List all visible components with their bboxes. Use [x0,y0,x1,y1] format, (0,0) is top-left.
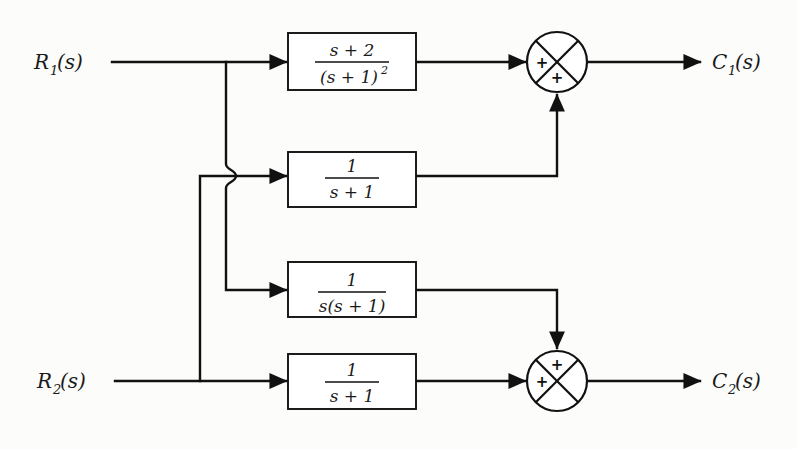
block-g12-numerator: 1 [347,156,358,176]
block-g21-denominator: s(s + 1) [319,296,386,316]
sum1-sign-bottom: + [551,69,564,87]
wire-g21-to-sum2 [416,290,557,348]
block-g22-denominator: s + 1 [330,386,375,406]
sum1-sign-left: + [536,54,549,72]
transfer-block-g22[interactable]: 1 s + 1 [288,354,416,409]
output-label-c1-symbol: C [712,50,727,74]
output-label-c1-suffix: (s) [735,50,761,74]
block-g12-denominator: s + 1 [330,182,375,202]
input-label-r1-suffix: (s) [57,50,83,74]
block-g11-exponent: 2 [380,64,388,77]
block-g11-numerator: s + 2 [330,40,375,60]
summing-junction-sum2[interactable]: + + [527,351,587,411]
block-g21-numerator: 1 [347,270,358,290]
transfer-block-g21[interactable]: 1 s(s + 1) [288,262,416,317]
input-label-r2-symbol: R [36,369,52,393]
input-label-r2-suffix: (s) [60,369,86,393]
wire-g12-to-sum1 [416,95,557,176]
block-diagram-canvas: s + 2 (s + 1) 2 1 s + 1 1 s(s + 1) 1 s +… [0,0,797,449]
output-label-c2-symbol: C [712,369,727,393]
block-diagram-page: s + 2 (s + 1) 2 1 s + 1 1 s(s + 1) 1 s +… [0,0,797,449]
input-label-r2: R 2 (s) [36,369,86,397]
output-label-c2-suffix: (s) [735,369,761,393]
block-g22-numerator: 1 [347,360,358,380]
transfer-block-g11[interactable]: s + 2 (s + 1) 2 [288,33,416,90]
summing-junction-sum1[interactable]: + + [527,32,587,92]
input-label-r1-symbol: R [33,50,49,74]
sum2-sign-left: + [536,373,549,391]
wire-r2-riser-to-g12 [200,176,286,381]
sum2-sign-top: + [551,356,564,374]
input-label-r1: R 1 (s) [33,50,83,78]
output-label-c1: C 1 (s) [712,50,761,78]
transfer-block-g12[interactable]: 1 s + 1 [288,152,416,207]
output-label-c2: C 2 (s) [712,369,761,397]
block-g11-denominator: (s + 1) [320,67,378,87]
